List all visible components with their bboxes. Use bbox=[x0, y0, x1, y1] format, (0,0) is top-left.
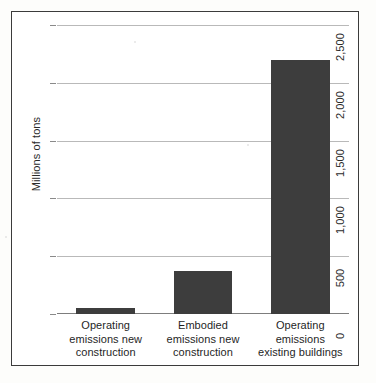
x-axis-category-line: emissions new bbox=[148, 333, 257, 347]
x-axis-category-label: Operatingemissions newconstruction bbox=[51, 319, 160, 360]
y-axis-tick bbox=[50, 256, 56, 257]
bar[interactable] bbox=[271, 60, 329, 314]
y-axis-tick-label: 500 bbox=[334, 255, 346, 301]
y-axis-tick-label: 2,500 bbox=[334, 24, 346, 70]
scan-speck bbox=[5, 236, 7, 238]
y-axis-tick bbox=[50, 198, 56, 199]
y-axis-tick bbox=[50, 141, 56, 142]
plot-area: 05001,0001,5002,0002,500 bbox=[57, 25, 349, 314]
x-axis-category-line: Embodied bbox=[148, 319, 257, 333]
x-axis-category-line: existing buildings bbox=[246, 346, 355, 360]
scan-speck bbox=[247, 144, 249, 146]
x-axis-category-line: emissions new bbox=[51, 333, 160, 347]
bar[interactable] bbox=[76, 308, 134, 314]
chart-figure: Millions of tons 05001,0001,5002,0002,50… bbox=[0, 0, 376, 383]
bar[interactable] bbox=[174, 271, 232, 314]
x-axis-category-label: Operatingemissionsexisting buildings bbox=[246, 319, 355, 360]
y-axis-tick-label: 1,500 bbox=[334, 140, 346, 186]
gridline bbox=[57, 25, 349, 26]
y-axis-tick bbox=[50, 25, 56, 26]
x-axis-category-label: Embodiedemissions newconstruction bbox=[148, 319, 257, 360]
y-axis-tick bbox=[50, 83, 56, 84]
x-axis-category-line: construction bbox=[148, 346, 257, 360]
y-axis-tick-label: 1,000 bbox=[334, 197, 346, 243]
x-axis-category-line: construction bbox=[51, 346, 160, 360]
y-axis-tick-label: 2,000 bbox=[334, 82, 346, 128]
y-axis-tick bbox=[50, 314, 56, 315]
x-axis-category-line: Operating bbox=[246, 319, 355, 333]
x-axis-category-line: Operating bbox=[51, 319, 160, 333]
x-axis-category-line: emissions bbox=[246, 333, 355, 347]
y-axis-title: Millions of tons bbox=[30, 94, 42, 214]
scan-speck bbox=[134, 41, 136, 43]
